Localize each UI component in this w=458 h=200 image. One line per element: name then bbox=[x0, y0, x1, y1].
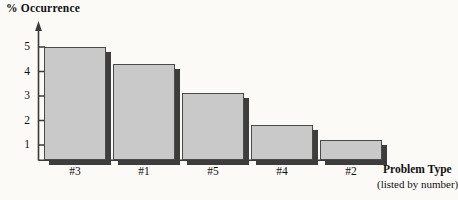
bar-problem-2 bbox=[320, 140, 382, 160]
x-tick-label-0: #3 bbox=[44, 166, 106, 178]
x-tick-label-3: #4 bbox=[251, 166, 313, 178]
x-tick-label-1: #1 bbox=[113, 166, 175, 178]
bar-problem-5 bbox=[182, 93, 244, 160]
x-axis-subtitle: (listed by number) bbox=[377, 178, 458, 190]
bar-problem-3 bbox=[44, 47, 106, 160]
x-tick-label-4: #2 bbox=[320, 166, 382, 178]
x-tick-label-2: #5 bbox=[182, 166, 244, 178]
x-axis-title: Problem Type bbox=[383, 163, 452, 175]
bar-problem-4 bbox=[251, 125, 313, 160]
bar-problem-1 bbox=[113, 64, 175, 160]
